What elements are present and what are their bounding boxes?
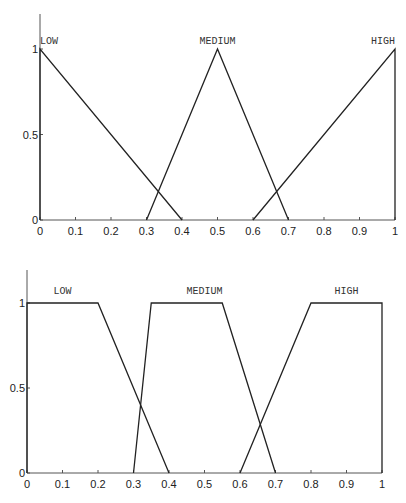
x-tick-label: 0.4 (174, 225, 189, 237)
x-tick-label: 0.2 (103, 225, 118, 237)
x-tick-label: 0.2 (90, 478, 105, 490)
x-tick-label: 0.8 (316, 225, 331, 237)
series-label-medium: MEDIUM (186, 286, 222, 297)
series-high (240, 303, 382, 473)
series-medium (134, 303, 276, 473)
series-low (27, 303, 169, 473)
membership-charts: 00.10.20.30.40.50.60.70.80.9100.51LOWMED… (0, 0, 406, 503)
series-label-high: HIGH (371, 36, 395, 47)
x-tick-label: 1 (379, 478, 385, 490)
x-tick-label: 0.4 (161, 478, 176, 490)
x-tick-label: 0.9 (339, 478, 354, 490)
x-tick-label: 0.6 (232, 478, 247, 490)
y-tick-label: 0 (32, 214, 38, 226)
x-tick-label: 0.6 (245, 225, 260, 237)
x-tick-label: 0.7 (268, 478, 283, 490)
x-tick-label: 1 (392, 225, 398, 237)
x-tick-label: 0.3 (139, 225, 154, 237)
x-tick-label: 0 (24, 478, 30, 490)
x-tick-label: 0.9 (352, 225, 367, 237)
x-tick-label: 0.8 (303, 478, 318, 490)
series-label-low: LOW (53, 286, 71, 297)
x-tick-label: 0.5 (210, 225, 225, 237)
y-tick-label: 1 (32, 43, 38, 55)
series-high (253, 49, 395, 220)
y-tick-label: 0.5 (23, 129, 38, 141)
series-low (40, 49, 182, 220)
x-tick-label: 0.1 (68, 225, 83, 237)
chart-2: 00.10.20.30.40.50.60.70.80.9100.51LOWMED… (10, 270, 385, 490)
x-tick-label: 0.7 (281, 225, 296, 237)
x-tick-label: 0.3 (126, 478, 141, 490)
series-medium (147, 49, 289, 220)
series-label-low: LOW (40, 36, 58, 47)
x-tick-label: 0.1 (55, 478, 70, 490)
x-tick-label: 0 (37, 225, 43, 237)
series-label-high: HIGH (334, 286, 358, 297)
chart-1: 00.10.20.30.40.50.60.70.80.9100.51LOWMED… (23, 14, 398, 237)
y-tick-label: 0 (19, 467, 25, 479)
x-tick-label: 0.5 (197, 478, 212, 490)
y-tick-label: 0.5 (10, 382, 25, 394)
y-tick-label: 1 (19, 297, 25, 309)
series-label-medium: MEDIUM (199, 36, 235, 47)
